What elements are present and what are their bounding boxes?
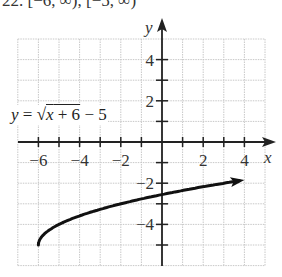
y-tick-label: 4 [146,51,155,70]
y-tick-label: −4 [136,215,155,234]
equation-tail: − 5 [80,105,107,124]
radicand: x + 6 [46,105,80,124]
equation-label: y = √x + 6 − 5 [10,105,108,125]
x-axis-label: x [263,148,272,167]
x-tick-label: −4 [71,151,90,170]
equation-equals: = [23,105,33,124]
x-tick-label: −6 [29,151,47,170]
graph: −6−4−22442−2−4 x y [0,0,282,277]
sqrt-symbol: √ [37,105,46,124]
equation-lhs: y [11,105,19,124]
y-tick-label: −2 [136,174,154,193]
y-axis-label: y [143,18,153,37]
x-tick-label: 2 [199,151,208,170]
x-tick-label: −2 [112,151,130,170]
y-tick-label: 2 [146,92,155,111]
x-tick-label: 4 [240,151,249,170]
